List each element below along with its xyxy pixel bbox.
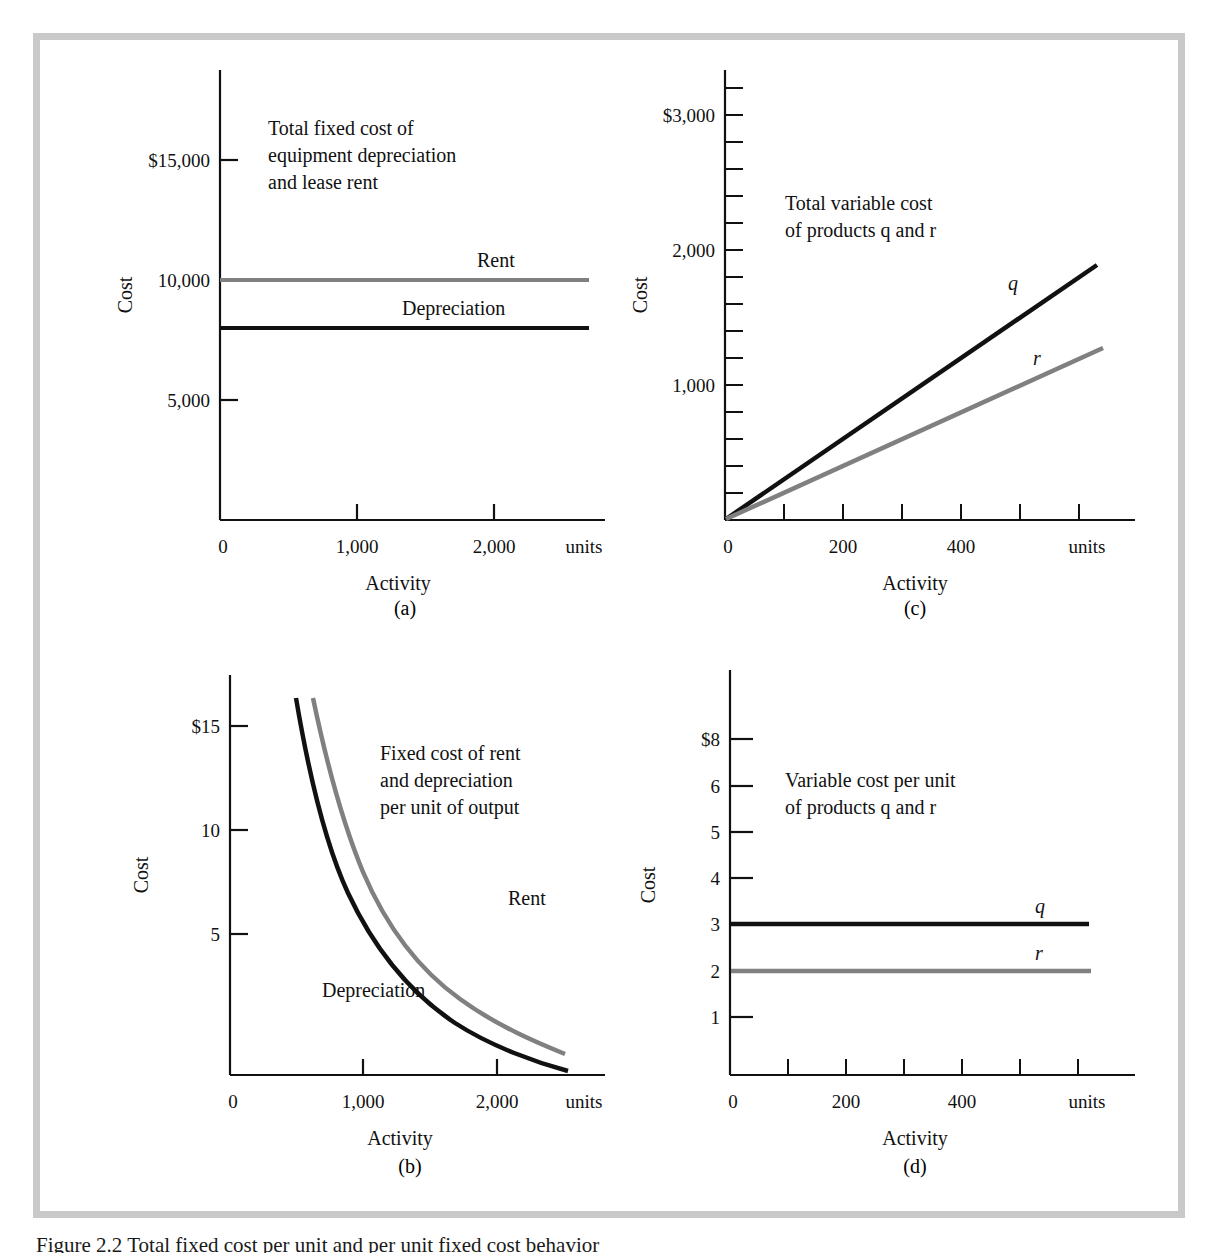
series-label-q-d: q <box>1035 895 1045 918</box>
series-line-q-c <box>726 265 1097 519</box>
annotation-c-line-0: Total variable cost <box>785 192 933 214</box>
y-ticklabel-a-2: $15,000 <box>148 150 210 171</box>
x-ticklabel-c-400: 400 <box>947 536 976 557</box>
series-line-r-c <box>726 348 1103 519</box>
series-label-depreciation-b: Depreciation <box>322 979 425 1002</box>
chart-c-svg: 1,000 2,000 $3,000 0 200 400 units Activ… <box>625 45 1185 615</box>
x-ticklabel-b-2: 2,000 <box>476 1091 519 1112</box>
series-label-r-c: r <box>1033 347 1041 369</box>
panel-label-c: (c) <box>865 597 965 620</box>
annotation-b-line-1: and depreciation <box>380 769 513 792</box>
chart-a-svg: $15,000 10,000 5,000 0 1,000 2,000 units… <box>60 45 620 615</box>
y-ticklabel-d-5: 5 <box>711 822 721 843</box>
x-ticklabel-a-0: 0 <box>218 536 228 557</box>
x-ticklabel-c-200: 200 <box>829 536 858 557</box>
chart-panel-b: $15 10 5 0 1,000 2,000 units Activity Co… <box>60 635 620 1205</box>
x-unit-label-d: units <box>1069 1091 1106 1112</box>
panel-label-d: (d) <box>865 1155 965 1178</box>
annotation-a-line-2: and lease rent <box>268 171 378 193</box>
x-ticklabel-c-0: 0 <box>723 536 733 557</box>
x-unit-label-b: units <box>566 1091 603 1112</box>
y-ticklabel-b-0: 5 <box>211 924 221 945</box>
x-axis-title-c: Activity <box>882 572 948 595</box>
annotation-b-line-0: Fixed cost of rent <box>380 742 521 764</box>
chart-panel-d: $8 6 5 4 3 2 1 0 200 400 units Activity … <box>625 635 1185 1205</box>
y-ticklabel-b-1: 10 <box>201 820 220 841</box>
series-label-r-d: r <box>1035 942 1043 964</box>
x-unit-label-c: units <box>1069 536 1106 557</box>
x-axis-title-d: Activity <box>882 1127 948 1150</box>
x-ticklabel-b-0: 0 <box>228 1091 238 1112</box>
x-ticklabel-d-200: 200 <box>832 1091 861 1112</box>
y-ticks-d <box>730 739 753 1017</box>
chart-panel-a: $15,000 10,000 5,000 0 1,000 2,000 units… <box>60 45 620 615</box>
y-axis-title-a: Cost <box>114 276 136 313</box>
y-ticklabel-b-2: $15 <box>192 716 221 737</box>
annotation-d-line-1: of products q and r <box>785 796 936 819</box>
chart-b-svg: $15 10 5 0 1,000 2,000 units Activity Co… <box>60 635 620 1205</box>
y-ticklabel-d-2: 2 <box>711 961 721 982</box>
annotation-a-line-1: equipment depreciation <box>268 144 456 167</box>
x-unit-label-a: units <box>566 536 603 557</box>
y-ticklabel-a-0: 5,000 <box>167 390 210 411</box>
x-ticklabel-b-1: 1,000 <box>342 1091 385 1112</box>
y-ticklabel-d-3: 3 <box>711 914 721 935</box>
x-ticks-d <box>788 1059 1078 1075</box>
y-ticklabel-d-6: 6 <box>711 776 721 797</box>
annotation-b-line-2: per unit of output <box>380 796 520 819</box>
y-minor-ticks-c <box>725 88 743 493</box>
x-ticklabel-a-2: 2,000 <box>473 536 516 557</box>
figure-frame: $15,000 10,000 5,000 0 1,000 2,000 units… <box>33 33 1185 1218</box>
y-ticklabel-d-8: $8 <box>701 729 720 750</box>
chart-panel-c: 1,000 2,000 $3,000 0 200 400 units Activ… <box>625 45 1185 615</box>
panel-label-a: (a) <box>355 597 455 620</box>
figure-caption: Figure 2.2 Total fixed cost per unit and… <box>36 1232 1196 1253</box>
y-ticklabel-d-1: 1 <box>711 1007 721 1028</box>
y-ticklabel-c-1000: 1,000 <box>672 375 715 396</box>
x-ticklabel-a-1: 1,000 <box>336 536 379 557</box>
series-label-depreciation-a: Depreciation <box>402 297 505 320</box>
annotation-c-line-1: of products q and r <box>785 219 936 242</box>
x-ticklabel-d-400: 400 <box>948 1091 977 1112</box>
y-ticklabel-d-4: 4 <box>711 868 721 889</box>
y-axis-title-b: Cost <box>130 856 152 893</box>
x-axis-title-a: Activity <box>365 572 431 595</box>
y-ticklabel-c-3000: $3,000 <box>663 105 715 126</box>
x-ticklabel-d-0: 0 <box>728 1091 738 1112</box>
x-axis-title-b: Activity <box>367 1127 433 1150</box>
panel-label-b: (b) <box>360 1155 460 1178</box>
y-axis-title-c: Cost <box>629 276 651 313</box>
chart-d-svg: $8 6 5 4 3 2 1 0 200 400 units Activity … <box>625 635 1185 1205</box>
series-label-rent-a: Rent <box>477 249 515 271</box>
y-ticklabel-a-1: 10,000 <box>158 270 210 291</box>
annotation-a-line-0: Total fixed cost of <box>268 117 414 139</box>
y-ticklabel-c-2000: 2,000 <box>672 240 715 261</box>
annotation-d-line-0: Variable cost per unit <box>785 769 956 792</box>
series-label-q-c: q <box>1008 272 1018 295</box>
series-label-rent-b: Rent <box>508 887 546 909</box>
x-ticks-c <box>784 504 1079 520</box>
y-axis-title-d: Cost <box>637 866 659 903</box>
